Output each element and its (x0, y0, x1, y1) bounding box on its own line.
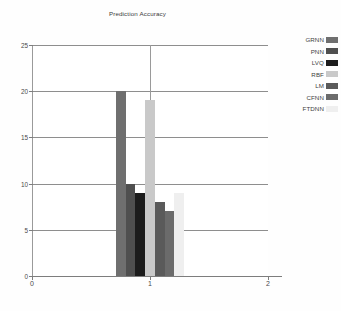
legend-item-lm[interactable]: LM (286, 80, 338, 92)
legend-swatch-lvq (326, 60, 338, 66)
bar-ftdnn (174, 193, 184, 276)
legend-swatch-rbf (326, 71, 338, 77)
legend-swatch-ftdnn (326, 106, 338, 112)
legend-swatch-cfnn (326, 94, 338, 100)
legend-swatch-grnn (326, 37, 338, 43)
legend-label-cfnn: CFNN (306, 94, 324, 101)
bars-layer (32, 45, 268, 276)
y-tick-label-20: 20 (6, 88, 28, 95)
legend-item-ftdnn[interactable]: FTDNN (286, 103, 338, 115)
x-tick-label-1: 1 (140, 280, 160, 287)
x-axis-tick-labels: 012 (0, 280, 341, 296)
x-axis-line (32, 276, 282, 277)
legend-label-lm: LM (315, 82, 324, 89)
legend-item-lvq[interactable]: LVQ (286, 57, 338, 69)
legend-item-rbf[interactable]: RBF (286, 69, 338, 81)
legend-item-pnn[interactable]: PNN (286, 46, 338, 58)
x-tick-mark-1 (150, 276, 151, 280)
legend-swatch-pnn (326, 48, 338, 54)
x-tick-mark-0 (32, 276, 33, 280)
chart-legend: GRNNPNNLVQRBFLMCFNNFTDNN (286, 34, 338, 115)
legend-label-lvq: LVQ (312, 59, 324, 66)
bar-grnn (116, 91, 126, 276)
legend-label-pnn: PNN (311, 48, 324, 55)
x-tick-mark-2 (268, 276, 269, 280)
chart-root: Prediction Accuracy 0510152025 012 GRNNP… (0, 0, 341, 311)
x-tick-label-2: 2 (258, 280, 278, 287)
chart-title: Prediction Accuracy (0, 10, 275, 17)
bar-pnn (126, 184, 136, 276)
legend-swatch-lm (326, 83, 338, 89)
y-tick-label-0: 0 (6, 273, 28, 280)
legend-label-grnn: GRNN (305, 36, 324, 43)
y-tick-label-5: 5 (6, 226, 28, 233)
bar-cfnn (165, 211, 175, 276)
y-tick-label-25: 25 (6, 42, 28, 49)
legend-item-grnn[interactable]: GRNN (286, 34, 338, 46)
legend-item-cfnn[interactable]: CFNN (286, 92, 338, 104)
x-tick-label-0: 0 (22, 280, 42, 287)
bar-lvq (135, 193, 145, 276)
legend-label-ftdnn: FTDNN (303, 105, 324, 112)
y-axis-tick-labels: 0510152025 (2, 45, 28, 276)
y-tick-label-15: 15 (6, 134, 28, 141)
bar-lm (155, 202, 165, 276)
legend-label-rbf: RBF (311, 71, 324, 78)
y-tick-label-10: 10 (6, 180, 28, 187)
bar-rbf (145, 100, 155, 276)
